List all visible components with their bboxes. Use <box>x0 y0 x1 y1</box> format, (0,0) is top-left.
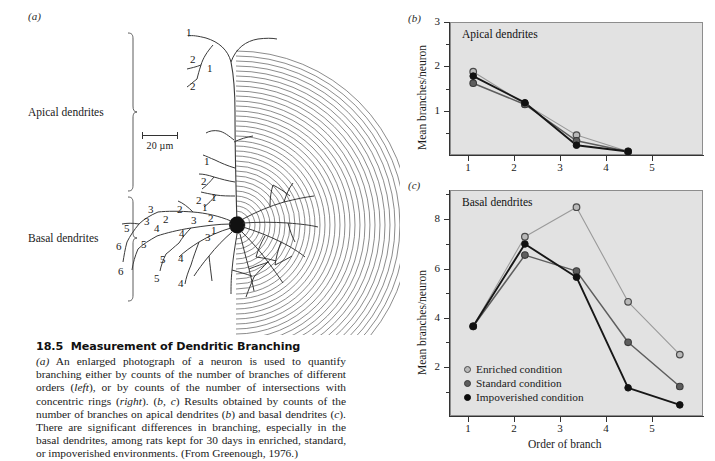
y-minor-tick-3-c <box>446 342 450 343</box>
x-ticklabel-2-b: 2 <box>504 161 524 173</box>
panel-c-letter: (c) <box>408 179 420 191</box>
caption-title: 18.5 Measurement of Dendritic Branching <box>36 340 346 353</box>
y-ticklabel-2-b: 2 <box>424 59 440 71</box>
plot-b-title: Apical dendrites <box>462 28 538 40</box>
legend-item-enriched: Enriched condition <box>464 362 584 376</box>
y-minor-tick-15-b <box>446 89 450 90</box>
legend-label-standard: Standard condition <box>476 377 562 389</box>
x-ticklabel-1-c: 1 <box>458 422 478 434</box>
y-tick-4-c <box>444 318 450 319</box>
y-minor-tick-5-c <box>446 293 450 294</box>
y-minor-tick-7-c <box>446 244 450 245</box>
x-axis-c <box>449 416 704 417</box>
legend-label-enriched: Enriched condition <box>476 363 562 375</box>
branch-order-numerals: 1 2 1 2 1 2 1 2 3 2 1 3 2 3 2 1 5 4 4 3 … <box>0 0 400 335</box>
x-axis-label-c: Order of branch <box>528 438 601 450</box>
y-ticklabel-2-c: 2 <box>424 360 440 372</box>
x-axis-b <box>449 155 704 156</box>
x-ticklabel-1-b: 1 <box>458 161 478 173</box>
gray-circle-icon <box>464 380 471 387</box>
y-ticklabel-8-c: 8 <box>424 212 440 224</box>
legend-label-impoverished: Impoverished condition <box>476 391 584 403</box>
y-tick-2-b <box>444 66 450 67</box>
y-minor-tick-25-b <box>446 44 450 45</box>
y-minor-tick-05-b <box>446 133 450 134</box>
legend-item-standard: Standard condition <box>464 376 584 390</box>
y-tick-3-b <box>444 22 450 23</box>
x-ticklabel-3-c: 3 <box>550 422 570 434</box>
scale-bar-line <box>138 132 182 139</box>
y-ticklabel-1-b: 1 <box>424 104 440 116</box>
panel-b-letter: (b) <box>408 12 421 24</box>
panel-b-apical-chart: (b) Apical dendrites Mean branches/neuro… <box>400 0 715 175</box>
plot-c-title: Basal dendrites <box>462 196 533 208</box>
y-tick-2-c <box>444 367 450 368</box>
basal-dendrites-label: Basal dendrites <box>28 232 99 244</box>
y-tick-6-c <box>444 269 450 270</box>
y-minor-tick-9-c <box>446 194 450 195</box>
panel-c-basal-chart: (c) Basal dendrites Mean branches/neuron… <box>400 175 715 459</box>
x-ticklabel-5-c: 5 <box>642 422 662 434</box>
scale-bar-label: 20 µm <box>138 140 182 151</box>
caption-heading: Measurement of Dendritic Branching <box>71 340 300 353</box>
apical-dendrites-label: Apical dendrites <box>28 106 104 118</box>
x-ticklabel-3-b: 3 <box>550 161 570 173</box>
y-tick-1-b <box>444 111 450 112</box>
black-circle-icon <box>464 394 471 401</box>
legend-item-impoverished: Impoverished condition <box>464 390 584 404</box>
plot-area-b <box>450 22 703 155</box>
figure-caption: 18.5 Measurement of Dendritic Branching … <box>36 340 346 461</box>
caption-body: (a) An enlarged photograph of a neuron i… <box>36 355 346 461</box>
x-ticklabel-2-c: 2 <box>504 422 524 434</box>
y-ticklabel-6-c: 6 <box>424 262 440 274</box>
chart-legend: Enriched condition Standard condition Im… <box>464 362 584 404</box>
scale-bar: 20 µm <box>138 132 182 151</box>
caption-number: 18.5 <box>36 340 63 353</box>
y-ticklabel-3-b: 3 <box>424 15 440 27</box>
open-gray-circle-icon <box>464 366 471 373</box>
panel-a-neuron-diagram: (a) <box>0 0 400 335</box>
y-ticklabel-4-c: 4 <box>424 311 440 323</box>
y-tick-8-c <box>444 219 450 220</box>
y-minor-tick-1-c <box>446 392 450 393</box>
x-ticklabel-5-b: 5 <box>642 161 662 173</box>
x-ticklabel-4-c: 4 <box>596 422 616 434</box>
x-ticklabel-4-b: 4 <box>596 161 616 173</box>
y-axis-c <box>449 190 450 417</box>
